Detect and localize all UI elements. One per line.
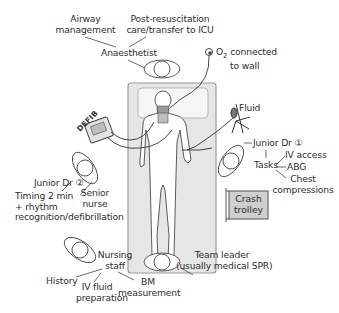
crash-line-1: Crash — [229, 194, 268, 205]
airway-management-label: Airway management — [53, 14, 118, 35]
anaesthetist-figure — [144, 60, 180, 78]
anaesthetist-label: Anaesthetist — [94, 48, 164, 59]
post-resuscitation-label: Post-resuscitation care/transfer to ICU — [120, 14, 220, 35]
team-leader-label: Team leader (usually medical SPR) — [176, 250, 268, 271]
oxygen-connector — [206, 49, 213, 56]
senior-line-1: Senior — [80, 188, 110, 199]
junior-dr-2-label: Junior Dr ② — [34, 178, 84, 189]
airway-line-2: management — [53, 25, 118, 36]
oxygen-suffix: connected — [227, 46, 277, 57]
crash-trolley-label: Crash trolley — [229, 194, 268, 215]
fluid-label: Fluid — [239, 103, 260, 114]
chest-compressions-label: Chest compressions — [268, 174, 338, 195]
nursing-line-1: Nursing — [95, 250, 135, 261]
abg-label: ABG — [287, 162, 306, 173]
junior-dr-1-label: Junior Dr ① — [253, 138, 303, 149]
anaesthetist-role: Anaesthetist — [101, 47, 157, 58]
bm-line-2: measurement — [118, 288, 178, 299]
post-line-1: Post-resuscitation — [120, 14, 220, 25]
oxygen-label: O2 connected to wall — [216, 47, 277, 72]
tasks-label: Tasks — [254, 160, 278, 171]
nursing-staff-figure — [60, 232, 100, 267]
team-leader-line-2: (usually medical SPR) — [176, 261, 268, 272]
timing-line-3: recognition/defibrillation — [15, 212, 124, 223]
chest-line-1: Chest — [268, 174, 338, 185]
history-label: History — [46, 276, 78, 287]
airway-line-1: Airway — [53, 14, 118, 25]
iv-fluid-line-2: preparation — [76, 293, 118, 304]
iv-fluid-label: IV fluid preparation — [76, 282, 118, 303]
team-leader-line-1: Team leader — [176, 250, 268, 261]
iv-access-label: IV access — [285, 150, 327, 161]
senior-line-2: nurse — [80, 199, 110, 210]
bm-line-1: BM — [118, 277, 178, 288]
iv-fluid-line-1: IV fluid — [76, 282, 118, 293]
oxygen-line-2: to wall — [216, 61, 277, 72]
nursing-staff-label: Nursing staff — [95, 250, 135, 271]
senior-nurse-label: Senior nurse — [80, 188, 110, 209]
nursing-line-2: staff — [95, 261, 135, 272]
junior-dr-1-figure — [213, 141, 248, 181]
chest-line-2: compressions — [268, 185, 338, 196]
crash-line-2: trolley — [229, 205, 268, 216]
team-leader-figure — [144, 253, 180, 271]
post-line-2: care/transfer to ICU — [120, 25, 220, 36]
oxygen-line-1: O2 connected — [216, 47, 277, 61]
bm-measurement-label: BM measurement — [118, 277, 178, 298]
